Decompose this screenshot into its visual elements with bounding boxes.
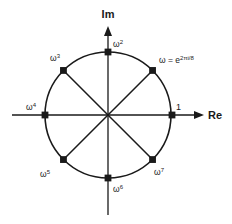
root-label-w3-exponent: 3 <box>57 53 61 59</box>
root-label-w1-base: ω = e <box>159 55 180 65</box>
root-label-w2: ω2 <box>113 39 124 49</box>
root-marker-w4 <box>42 112 49 119</box>
imaginary-axis-label: Im <box>102 8 115 20</box>
root-label-w4: ω4 <box>26 102 37 112</box>
root-marker-w7 <box>149 156 156 163</box>
real-axis-arrowhead <box>194 111 204 119</box>
root-label-w2-exponent: 2 <box>120 39 124 45</box>
root-label-w6: ω6 <box>113 184 124 194</box>
root-marker-w2 <box>105 49 112 56</box>
root-label-w5-exponent: 5 <box>47 169 51 175</box>
root-label-w1-exponent: 2πi/8 <box>180 55 194 61</box>
root-marker-w0 <box>169 112 176 119</box>
root-label-w7: ω7 <box>154 167 165 177</box>
root-label-w7-exponent: 7 <box>161 167 165 173</box>
real-axis-label: Re <box>208 109 222 121</box>
root-label-w0: 1 <box>176 102 181 112</box>
root-marker-w5 <box>60 156 67 163</box>
root-marker-w1 <box>149 67 156 74</box>
diagram-canvas: Re Im 1 ω = e2πi/8 ω2 ω3 ω4 ω5 ω6 ω7 <box>0 0 232 224</box>
root-marker-w6 <box>105 175 112 182</box>
unit-circle-diagram: Re Im 1 ω = e2πi/8 ω2 ω3 ω4 ω5 ω6 ω7 <box>0 0 232 224</box>
root-label-w6-exponent: 6 <box>120 184 124 190</box>
root-label-w1: ω = e2πi/8 <box>159 55 195 65</box>
root-label-w4-exponent: 4 <box>33 102 37 108</box>
imaginary-axis-arrowhead <box>104 26 112 36</box>
root-label-w3: ω3 <box>50 53 61 63</box>
root-label-w5: ω5 <box>40 169 51 179</box>
root-marker-w3 <box>60 67 67 74</box>
